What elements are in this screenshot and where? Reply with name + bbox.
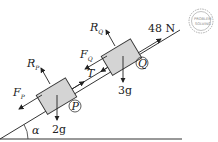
friction-label-q: FQ xyxy=(79,48,93,62)
applied-force-arrow xyxy=(138,39,161,53)
tension-label: T xyxy=(87,67,96,80)
stamp-line-2: SOLVING xyxy=(195,22,211,26)
inclined-plane xyxy=(0,30,180,139)
reaction-arrow-p xyxy=(41,68,50,84)
block-q xyxy=(101,39,141,75)
stamp-line-1: PROBLEM xyxy=(194,17,211,21)
applied-force-label: 48 N xyxy=(148,22,175,35)
particle-label-p: P xyxy=(71,100,80,113)
problem-solving-stamp: PROBLEM SOLVING xyxy=(189,9,213,33)
angle-label: α xyxy=(32,124,40,137)
friction-label-p: FP xyxy=(12,86,26,100)
weight-label-p: 2g xyxy=(52,123,66,136)
angle-arc xyxy=(24,125,28,140)
reaction-label-p: RP xyxy=(26,57,40,71)
reaction-label-q: RQ xyxy=(89,21,103,35)
particle-label-q: Q xyxy=(138,57,147,70)
incline-diagram: α T FP RP 2g P 48 N FQ RQ 3g Q PROBLEM S… xyxy=(0,0,218,142)
reaction-arrow-q xyxy=(106,30,115,46)
weight-label-q: 3g xyxy=(118,84,132,97)
